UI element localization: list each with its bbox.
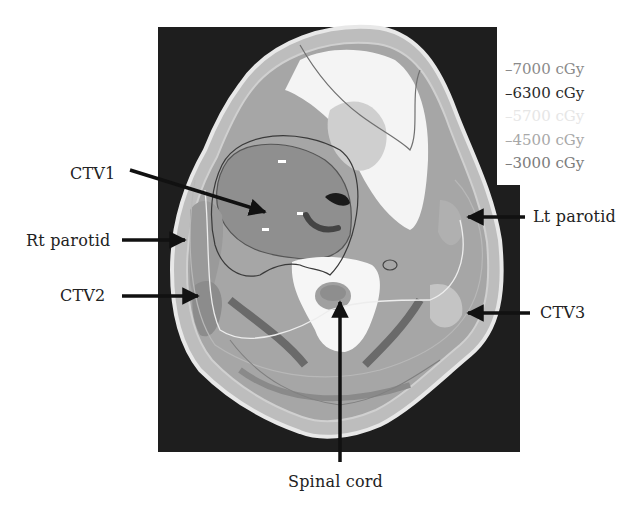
label-ctv1: CTV1 <box>70 166 115 182</box>
dose-legend: –7000 cGy –6300 cGy –5700 cGy –4500 cGy … <box>505 58 584 176</box>
label-rt-parotid: Rt parotid <box>26 233 110 249</box>
legend-item-4500: –4500 cGy <box>505 129 584 153</box>
label-ctv2: CTV2 <box>60 288 105 304</box>
legend-item-7000: –7000 cGy <box>505 58 584 82</box>
figure: CTV1 Rt parotid CTV2 Lt parotid CTV3 Spi… <box>0 0 639 510</box>
legend-item-5700: –5700 cGy <box>505 105 584 129</box>
legend-item-3000: –3000 cGy <box>505 152 584 176</box>
label-lt-parotid: Lt parotid <box>533 209 616 225</box>
label-spinal-cord: Spinal cord <box>288 474 383 490</box>
legend-item-6300: –6300 cGy <box>505 82 584 106</box>
label-ctv3: CTV3 <box>540 305 585 321</box>
